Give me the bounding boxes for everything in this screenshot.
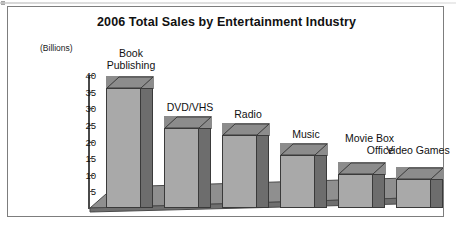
bar-movie-box-office[interactable] xyxy=(338,162,386,208)
series-label-radio: Radio xyxy=(205,108,291,120)
series-label-line1: Movie Box xyxy=(345,132,394,144)
y-tick-mark-20 xyxy=(90,142,94,143)
series-label-book-publishing: Book Publishing xyxy=(88,47,174,71)
bar-video-games[interactable] xyxy=(396,167,444,208)
y-tick-mark-25 xyxy=(90,125,94,126)
bar-front-face-movie-box-office xyxy=(338,174,373,208)
bar-front-face-video-games xyxy=(396,179,431,208)
chart-frame: 2006 Total Sales by Entertainment Indust… xyxy=(7,6,444,217)
bar-front-face-book-publishing xyxy=(106,88,141,208)
y-tick-mark-35 xyxy=(90,92,94,93)
bar-side-face-music xyxy=(314,155,327,208)
bar-side-face-dvd-vhs xyxy=(198,128,211,208)
bar-side-face-radio xyxy=(256,135,269,208)
bar-dvd-vhs[interactable] xyxy=(164,116,212,208)
series-label-video-games: Video Games xyxy=(373,144,456,156)
series-label-line1: Radio xyxy=(234,108,261,120)
series-label-line1: Video Games xyxy=(386,144,449,156)
bar-book-publishing[interactable] xyxy=(106,76,154,208)
series-label-line1: Book xyxy=(119,47,143,59)
y-tick-mark-15 xyxy=(90,158,94,159)
bar-side-face-movie-box-office xyxy=(372,174,385,208)
chart-title: 2006 Total Sales by Entertainment Indust… xyxy=(8,15,445,29)
scan-artifact-line xyxy=(0,2,456,4)
bar-side-face-video-games xyxy=(430,179,443,208)
bar-front-face-radio xyxy=(222,135,257,208)
bar-front-face-dvd-vhs xyxy=(164,128,199,208)
y-tick-mark-30 xyxy=(90,108,94,109)
series-label-line2: Publishing xyxy=(88,59,174,71)
y-tick-mark-40 xyxy=(90,75,94,76)
y-axis-units-label: (Billions) xyxy=(40,43,73,53)
bar-front-face-music xyxy=(280,155,315,208)
